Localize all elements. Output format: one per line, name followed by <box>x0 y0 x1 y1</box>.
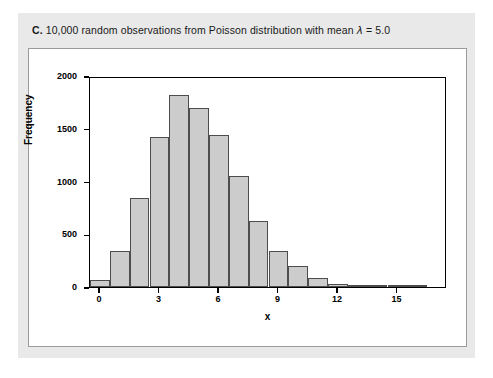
histogram-bar <box>150 137 170 287</box>
histogram-bar <box>130 198 150 287</box>
histogram-bar <box>110 251 130 287</box>
histogram-bar <box>249 221 269 287</box>
y-axis-tick <box>84 129 89 130</box>
histogram-bar <box>308 278 328 287</box>
histogram-bar <box>269 251 289 287</box>
histogram-bar <box>388 285 408 287</box>
y-axis-tick <box>84 182 89 183</box>
y-axis-tick <box>84 76 89 77</box>
histogram-bar <box>348 285 368 287</box>
x-axis-tick <box>336 288 337 293</box>
y-axis-tick-label: 500 <box>41 229 77 239</box>
histogram-bar <box>328 284 348 287</box>
histogram-bar <box>407 285 427 287</box>
y-axis-tick-label: 2000 <box>41 71 77 81</box>
figure-caption: C. 10,000 random observations from Poiss… <box>32 24 472 36</box>
y-axis-tick <box>84 235 89 236</box>
x-axis-tick-label: 6 <box>215 294 220 304</box>
x-axis-tick <box>98 288 99 293</box>
histogram-bar <box>368 285 388 287</box>
x-axis-tick-label: 0 <box>96 294 101 304</box>
x-axis-tick <box>277 288 278 293</box>
histogram-bar <box>288 266 308 287</box>
y-axis-tick <box>84 287 89 288</box>
y-axis-labels <box>39 49 84 346</box>
histogram-bars <box>90 78 445 287</box>
caption-value: = 5.0 <box>363 24 390 36</box>
figure-root: C. 10,000 random observations from Poiss… <box>0 0 493 378</box>
y-axis-tick-label: 1500 <box>41 124 77 134</box>
plot-frame <box>89 77 446 288</box>
histogram-bar <box>90 280 110 287</box>
x-axis-tick-label: 12 <box>332 294 342 304</box>
y-axis-tick-label: 0 <box>41 282 77 292</box>
chart-card: Frequency 0500100015002000 03691215 x <box>28 48 467 347</box>
x-axis-tick-label: 15 <box>391 294 401 304</box>
x-axis-title: x <box>89 311 446 322</box>
caption-text: 10,000 random observations from Poisson … <box>46 24 357 36</box>
x-axis-tick-label: 3 <box>156 294 161 304</box>
x-axis-tick <box>217 288 218 293</box>
x-axis-tick <box>396 288 397 293</box>
histogram-bar <box>229 176 249 287</box>
histogram-bar <box>169 95 189 287</box>
x-axis-tick <box>158 288 159 293</box>
caption-letter: C. <box>32 24 43 36</box>
y-axis-tick-label: 1000 <box>41 177 77 187</box>
x-axis-tick-label: 9 <box>275 294 280 304</box>
y-axis-title: Frequency <box>23 94 34 145</box>
histogram-bar <box>189 108 209 287</box>
histogram-bar <box>209 135 229 287</box>
